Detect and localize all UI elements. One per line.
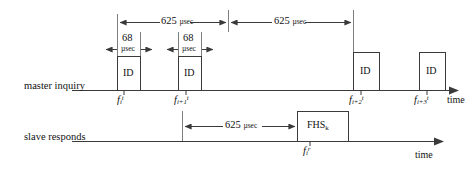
freq-subscript: i+3 [417, 98, 427, 105]
master-packet-2-label: ID [184, 68, 195, 78]
master-packet-2-freq: fi+1t [174, 95, 189, 106]
dimension-slot-1-label: 625 µsec [161, 16, 193, 27]
dim-value: 625 [225, 119, 241, 130]
master-packet-3-freq: fi+2t [349, 95, 364, 106]
master-track-label: master inquiry [24, 81, 85, 92]
master-packet-4-label: ID [426, 66, 437, 76]
freq-superscript: t [427, 94, 429, 101]
master-packet-1-freq: fit [117, 95, 124, 106]
master-tick-marks [124, 91, 427, 96]
slave-track-label: slave responds [24, 132, 86, 143]
freq-subscript: i+1 [177, 98, 187, 105]
dimension-packet-2-value: 68 [183, 33, 194, 44]
guide-lines-group [118, 10, 354, 56]
freq-superscript: t [122, 94, 124, 101]
master-time-axis-label: time [447, 95, 465, 105]
dim-value: 625 [161, 15, 177, 26]
master-packet-4-freq: fi+3t [414, 95, 429, 106]
dim-unit: µsec [179, 17, 193, 26]
slave-packet-1-label: FHSk [307, 120, 329, 132]
master-packet-3-label: ID [360, 66, 371, 76]
dim-value: 625 [274, 15, 290, 26]
freq-subscript: i+2 [352, 98, 362, 105]
dimension-slave-offset-label: 625 µsec [225, 120, 257, 131]
slave-time-axis-label: time [415, 150, 433, 160]
freq-superscript: r [308, 145, 311, 152]
dimension-packet-1-unit: µsec [121, 45, 135, 53]
master-packet-1-label: ID [123, 68, 134, 78]
fhs-text: FHS [307, 119, 325, 130]
timing-diagram-figure: master inquiry slave responds ID ID ID I… [0, 0, 471, 170]
dim-unit: µsec [243, 121, 257, 130]
slave-timeline-group [72, 138, 444, 146]
fhs-subscript: k [325, 124, 329, 132]
freq-superscript: t [362, 94, 364, 101]
freq-superscript: t [187, 94, 189, 101]
dimension-packet-2-unit: µsec [182, 45, 196, 53]
dim-unit: µsec [292, 17, 306, 26]
slave-packet-1-freq: fir [303, 146, 310, 157]
slave-time-arrowhead [434, 138, 444, 146]
dimension-packet-1-value: 68 [122, 33, 133, 44]
dimension-slot-2-label: 625 µsec [274, 16, 306, 27]
